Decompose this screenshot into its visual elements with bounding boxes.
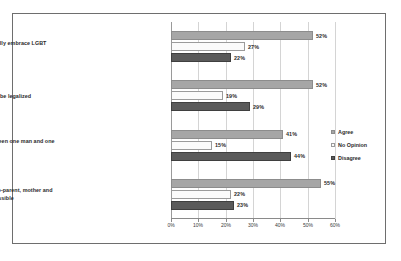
bar-value-label: 23% xyxy=(237,202,248,208)
bar-row: 52% xyxy=(171,31,335,40)
legend-label: Agree xyxy=(338,129,353,135)
x-axis-tick-labels: 0%10%20%30%40%50%60% xyxy=(171,222,335,236)
bar-value-label: 22% xyxy=(234,55,245,61)
x-tick-label: 60% xyxy=(330,222,340,228)
legend-item-no-opinion[interactable]: No Opinion xyxy=(331,139,391,150)
bar-group: 52%27%22% xyxy=(171,31,335,62)
bar-row: 23% xyxy=(171,201,335,210)
bar-no-opinion[interactable] xyxy=(171,141,212,150)
bar-value-label: 29% xyxy=(253,104,264,110)
bar-group: 52%19%29% xyxy=(171,80,335,111)
legend-swatch-icon xyxy=(331,143,335,147)
x-tick-label: 30% xyxy=(248,222,258,228)
bar-disagree[interactable] xyxy=(171,152,291,161)
plot-area: 52%27%22%52%19%29%41%15%44%55%22%23% xyxy=(171,22,335,219)
bar-value-label: 22% xyxy=(234,191,245,197)
bar-row: 22% xyxy=(171,53,335,62)
bar-value-label: 44% xyxy=(294,153,305,159)
bar-agree[interactable] xyxy=(171,31,313,40)
x-tick-label: 40% xyxy=(275,222,285,228)
x-tick-label: 0% xyxy=(167,222,174,228)
bar-value-label: 41% xyxy=(286,131,297,137)
x-tick-label: 10% xyxy=(193,222,203,228)
legend-label: Disagree xyxy=(338,155,361,161)
bar-row: 27% xyxy=(171,42,335,51)
bar-row: 52% xyxy=(171,80,335,89)
bar-agree[interactable] xyxy=(171,80,313,89)
bar-value-label: 55% xyxy=(324,180,335,186)
bar-no-opinion[interactable] xyxy=(171,91,223,100)
bar-agree[interactable] xyxy=(171,179,321,188)
bar-disagree[interactable] xyxy=(171,102,250,111)
bar-value-label: 19% xyxy=(226,93,237,99)
bar-row: 44% xyxy=(171,152,335,161)
bar-no-opinion[interactable] xyxy=(171,42,245,51)
category-label: Marriage is only a relationship between … xyxy=(0,137,55,153)
gridline-60 xyxy=(335,22,336,219)
bar-row: 55% xyxy=(171,179,335,188)
bar-value-label: 52% xyxy=(316,33,327,39)
category-label: Same sex marriage should be legalized xyxy=(0,92,55,100)
legend-label: No Opinion xyxy=(338,142,367,148)
legend-swatch-icon xyxy=(331,130,335,134)
chart-frame: 52%27%22%52%19%29%41%15%44%55%22%23% 0%1… xyxy=(12,13,386,244)
bar-row: 19% xyxy=(171,91,335,100)
bar-group: 41%15%44% xyxy=(171,130,335,161)
bar-row: 29% xyxy=(171,102,335,111)
chart-plot-wrapper: 52%27%22%52%19%29%41%15%44%55%22%23% 0%1… xyxy=(13,14,385,243)
bar-group: 55%22%23% xyxy=(171,179,335,210)
bar-disagree[interactable] xyxy=(171,201,234,210)
bar-row: 41% xyxy=(171,130,335,139)
chart-legend: AgreeNo OpinionDisagree xyxy=(331,126,391,165)
x-tick-label: 20% xyxy=(221,222,231,228)
bar-no-opinion[interactable] xyxy=(171,190,231,199)
legend-item-disagree[interactable]: Disagree xyxy=(331,152,391,163)
category-label: Children ought to be raised in a two-par… xyxy=(0,186,55,202)
bar-row: 22% xyxy=(171,190,335,199)
legend-item-agree[interactable]: Agree xyxy=(331,126,391,137)
bar-value-label: 52% xyxy=(316,82,327,88)
bar-value-label: 27% xyxy=(248,44,259,50)
category-label: Religious communities should fully embra… xyxy=(0,39,55,55)
x-tick-label: 50% xyxy=(303,222,313,228)
bar-value-label: 15% xyxy=(215,142,226,148)
bar-row: 15% xyxy=(171,141,335,150)
legend-swatch-icon xyxy=(331,156,335,160)
bar-disagree[interactable] xyxy=(171,53,231,62)
bar-agree[interactable] xyxy=(171,130,283,139)
